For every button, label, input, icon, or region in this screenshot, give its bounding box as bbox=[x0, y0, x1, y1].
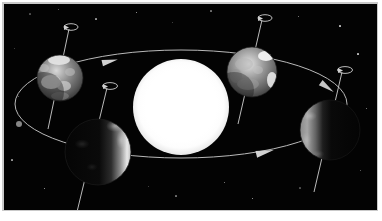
earth-right-rotation-arrow bbox=[338, 67, 353, 74]
earth-right bbox=[300, 67, 360, 192]
earth-lower-left bbox=[65, 83, 131, 210]
earth-bodies-layer bbox=[4, 4, 377, 210]
earth-upper-left bbox=[24, 24, 83, 129]
earth-upper-right bbox=[214, 15, 277, 124]
space-background: Earth's orbit around the Sun showing axi… bbox=[4, 4, 377, 210]
seasons-diagram-figure: Earth's orbit around the Sun showing axi… bbox=[0, 0, 382, 221]
earth-upper-right-rotation-arrow bbox=[258, 15, 272, 22]
earth-lower-left-rotation-arrow bbox=[103, 83, 118, 90]
earth-upper-left-rotation-arrow bbox=[64, 24, 78, 31]
